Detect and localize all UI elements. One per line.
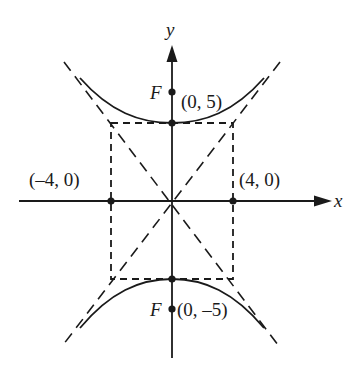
asymptote-negative-slope [64, 62, 278, 345]
y-axis-arrow-icon [167, 45, 178, 62]
y-axis-label: y [164, 19, 175, 40]
co-vertex-left-label: (–4, 0) [29, 169, 80, 191]
focus-top-label: F [149, 82, 162, 103]
vertex-top-dot [168, 119, 175, 126]
focus-bottom-dot [168, 305, 175, 312]
x-axis-arrow-icon [314, 196, 332, 207]
vertex-bottom-dot [168, 275, 175, 282]
diagram-canvas: y x F F (0, 5) (0, –5) (–4, 0) (4, 0) [0, 0, 358, 365]
co-vertex-right-label: (4, 0) [239, 169, 280, 191]
co-vertex-right-dot [229, 197, 236, 204]
co-vertex-left-dot [107, 197, 114, 204]
x-axis-label: x [333, 190, 343, 211]
focus-bottom-label: F [149, 299, 162, 320]
focus-top-dot [168, 88, 175, 95]
hyperbola-diagram: y x F F (0, 5) (0, –5) (–4, 0) (4, 0) [0, 0, 358, 365]
vertex-bottom-label: (0, –5) [177, 299, 228, 321]
vertex-top-label: (0, 5) [181, 91, 222, 113]
